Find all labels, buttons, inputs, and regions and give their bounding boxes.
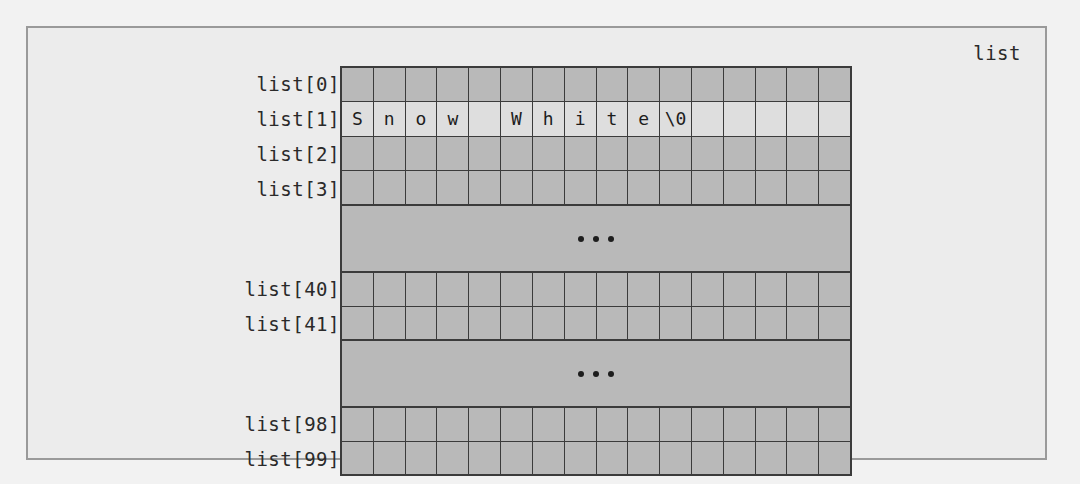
array-cell[interactable] xyxy=(596,273,628,306)
array-cell[interactable] xyxy=(691,171,723,204)
array-cell[interactable] xyxy=(564,273,596,306)
array-cell[interactable] xyxy=(468,68,500,101)
array-cell[interactable] xyxy=(755,68,787,101)
array-cell[interactable] xyxy=(564,307,596,340)
array-cell[interactable] xyxy=(468,442,500,475)
array-cell[interactable] xyxy=(342,408,373,441)
array-cell[interactable] xyxy=(532,408,564,441)
array-cell[interactable] xyxy=(755,442,787,475)
array-cell[interactable] xyxy=(659,68,691,101)
array-cell[interactable] xyxy=(373,171,405,204)
array-cell[interactable] xyxy=(818,68,850,101)
array-cell[interactable] xyxy=(373,273,405,306)
array-cell[interactable] xyxy=(659,408,691,441)
array-cell[interactable] xyxy=(564,68,596,101)
array-cell[interactable] xyxy=(723,408,755,441)
array-cell[interactable] xyxy=(436,442,468,475)
array-cell[interactable]: S xyxy=(342,102,373,135)
array-cell[interactable] xyxy=(564,442,596,475)
array-cell[interactable] xyxy=(373,137,405,170)
array-cell[interactable] xyxy=(436,68,468,101)
array-cell[interactable] xyxy=(532,68,564,101)
array-cell[interactable]: e xyxy=(627,102,659,135)
array-cell[interactable] xyxy=(532,273,564,306)
array-cell[interactable] xyxy=(405,408,437,441)
array-cell[interactable] xyxy=(818,137,850,170)
array-row[interactable] xyxy=(342,441,850,475)
array-cell[interactable] xyxy=(755,408,787,441)
array-cell[interactable] xyxy=(659,137,691,170)
array-row[interactable] xyxy=(342,306,850,340)
array-cell[interactable] xyxy=(723,102,755,135)
array-cell[interactable] xyxy=(373,408,405,441)
array-cell[interactable] xyxy=(691,442,723,475)
array-cell[interactable] xyxy=(755,137,787,170)
array-cell[interactable] xyxy=(405,442,437,475)
array-cell[interactable]: \0 xyxy=(659,102,691,135)
array-cell[interactable] xyxy=(405,273,437,306)
array-cell[interactable] xyxy=(691,137,723,170)
array-cell[interactable] xyxy=(596,68,628,101)
array-cell[interactable] xyxy=(596,137,628,170)
array-cell[interactable] xyxy=(532,137,564,170)
array-cell[interactable] xyxy=(691,307,723,340)
array-cell[interactable] xyxy=(532,442,564,475)
array-cell[interactable] xyxy=(342,442,373,475)
array-cell[interactable] xyxy=(500,137,532,170)
array-cell[interactable]: t xyxy=(596,102,628,135)
array-cell[interactable] xyxy=(659,307,691,340)
array-cell[interactable]: W xyxy=(500,102,532,135)
array-cell[interactable] xyxy=(564,137,596,170)
array-cell[interactable] xyxy=(468,137,500,170)
array-cell[interactable] xyxy=(373,68,405,101)
array-cell[interactable] xyxy=(564,171,596,204)
array-cell[interactable] xyxy=(596,408,628,441)
array-cell[interactable] xyxy=(468,273,500,306)
array-cell[interactable] xyxy=(818,102,850,135)
array-cell[interactable] xyxy=(500,442,532,475)
array-cell[interactable]: w xyxy=(436,102,468,135)
array-cell[interactable] xyxy=(342,273,373,306)
array-cell[interactable] xyxy=(659,171,691,204)
array-cell[interactable] xyxy=(818,273,850,306)
array-cell[interactable] xyxy=(786,273,818,306)
array-cell[interactable] xyxy=(373,307,405,340)
array-cell[interactable] xyxy=(786,408,818,441)
array-cell[interactable] xyxy=(468,408,500,441)
array-row[interactable] xyxy=(342,136,850,170)
array-cell[interactable] xyxy=(342,137,373,170)
array-cell[interactable] xyxy=(405,68,437,101)
array-cell[interactable] xyxy=(627,137,659,170)
array-cell[interactable]: n xyxy=(373,102,405,135)
array-cell[interactable] xyxy=(436,307,468,340)
array-row[interactable] xyxy=(342,273,850,306)
array-cell[interactable] xyxy=(723,442,755,475)
array-cell[interactable] xyxy=(627,171,659,204)
array-cell[interactable] xyxy=(468,307,500,340)
array-cell[interactable] xyxy=(818,408,850,441)
array-cell[interactable] xyxy=(436,273,468,306)
array-cell[interactable] xyxy=(691,68,723,101)
array-cell[interactable] xyxy=(342,171,373,204)
array-row[interactable] xyxy=(342,408,850,441)
array-row[interactable] xyxy=(342,170,850,204)
array-row[interactable] xyxy=(342,68,850,101)
array-cell[interactable] xyxy=(723,307,755,340)
array-cell[interactable] xyxy=(627,442,659,475)
array-cell[interactable] xyxy=(723,68,755,101)
array-cell[interactable] xyxy=(436,137,468,170)
array-cell[interactable] xyxy=(723,171,755,204)
array-cell[interactable] xyxy=(596,307,628,340)
array-cell[interactable] xyxy=(786,102,818,135)
array-cell[interactable] xyxy=(627,408,659,441)
array-cell[interactable] xyxy=(659,442,691,475)
array-cell[interactable] xyxy=(786,68,818,101)
array-cell[interactable] xyxy=(691,102,723,135)
array-cell[interactable] xyxy=(723,137,755,170)
array-cell[interactable] xyxy=(596,171,628,204)
array-cell[interactable] xyxy=(786,307,818,340)
array-cell[interactable] xyxy=(627,307,659,340)
array-cell[interactable] xyxy=(786,171,818,204)
array-cell[interactable] xyxy=(500,273,532,306)
array-cell[interactable] xyxy=(755,102,787,135)
